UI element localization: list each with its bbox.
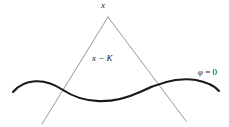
figure-background bbox=[0, 0, 229, 127]
light-cone-figure: x x − K φ = 0 bbox=[0, 0, 229, 127]
region-label-x-minus-k: x − K bbox=[92, 54, 113, 63]
surface-label-phi-equals-zero: φ = 0 bbox=[198, 68, 217, 77]
diagram-canvas bbox=[0, 0, 229, 127]
phi-equals-zero-text: = 0 bbox=[203, 67, 217, 77]
cone-apex-label: x bbox=[101, 1, 105, 10]
